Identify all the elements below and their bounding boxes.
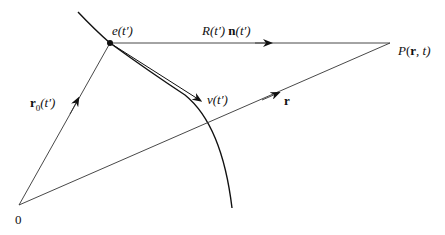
r0-vector-line xyxy=(19,43,110,205)
charge-point xyxy=(107,40,113,46)
field-point-label: P(r, t) xyxy=(398,44,431,57)
r0-label: r0(t′) xyxy=(30,96,55,113)
diagram-canvas: e(t′) R(t′) n(t′) P(r, t) r0(t′) v(t′) r… xyxy=(0,0,445,235)
charge-label: e(t′) xyxy=(112,24,133,37)
v-vector-line xyxy=(110,43,198,99)
r-arrowhead xyxy=(262,94,276,100)
Rn-label: R(t′) n(t′) xyxy=(202,24,251,37)
r0-arrowhead xyxy=(70,101,77,114)
r-label: r xyxy=(284,94,290,107)
r-vector-line xyxy=(19,43,390,205)
trajectory-curve xyxy=(78,12,232,208)
v-label: v(t′) xyxy=(207,93,228,106)
origin-label: 0 xyxy=(15,213,22,226)
